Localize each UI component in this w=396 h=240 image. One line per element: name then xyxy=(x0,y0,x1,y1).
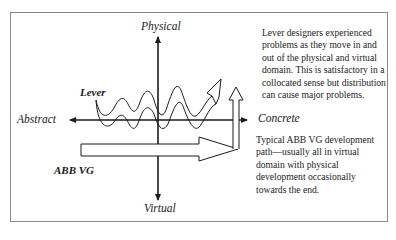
axis-label-physical: Physical xyxy=(141,20,181,32)
axis-label-abstract: Abstract xyxy=(17,113,56,125)
series-label-abb-vg: ABB VG xyxy=(54,164,94,176)
series-label-lever: Lever xyxy=(80,86,106,98)
lever-annotation: Lever designers experienced problems as … xyxy=(262,27,386,101)
abb-vg-annotation: Typical ABB VG development path—usually … xyxy=(256,134,388,196)
axis-label-concrete: Concrete xyxy=(258,112,300,124)
axis-label-virtual: Virtual xyxy=(144,202,176,214)
